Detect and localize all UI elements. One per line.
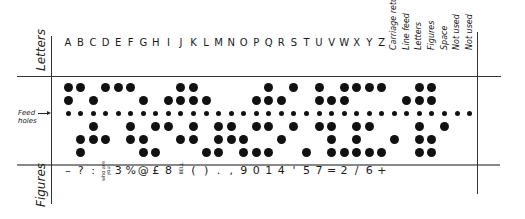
feed-hole bbox=[304, 111, 309, 116]
feed-hole bbox=[429, 111, 434, 116]
column-figure: @ bbox=[137, 164, 149, 177]
column-letter: T bbox=[300, 37, 312, 48]
column-figure: who are you bbox=[101, 161, 111, 181]
punched-hole bbox=[402, 96, 411, 105]
punched-hole bbox=[164, 96, 173, 105]
punched-hole bbox=[227, 135, 236, 144]
column-letter: N bbox=[225, 37, 237, 48]
feed-hole bbox=[128, 111, 133, 116]
feed-hole bbox=[404, 111, 409, 116]
feed-hole bbox=[78, 111, 83, 116]
punched-hole bbox=[126, 83, 135, 92]
punched-hole bbox=[189, 83, 198, 92]
top-rule-right bbox=[249, 76, 501, 77]
column-letter: P bbox=[250, 37, 262, 48]
feed-hole bbox=[178, 111, 183, 116]
column-label: Line feed bbox=[402, 13, 411, 50]
punched-hole bbox=[352, 135, 361, 144]
punched-hole bbox=[327, 122, 336, 131]
punched-hole bbox=[89, 135, 98, 144]
punched-hole bbox=[377, 148, 386, 157]
punched-hole bbox=[189, 96, 198, 105]
column-letter: Q bbox=[263, 37, 275, 48]
punched-hole bbox=[64, 96, 73, 105]
feed-hole bbox=[266, 111, 271, 116]
punched-hole bbox=[327, 135, 336, 144]
punched-hole bbox=[352, 148, 361, 157]
punched-hole bbox=[176, 96, 185, 105]
column-letter: H bbox=[150, 37, 162, 48]
column-letter: U bbox=[313, 37, 325, 48]
feed-hole bbox=[141, 111, 146, 116]
punched-hole bbox=[415, 148, 424, 157]
punched-hole bbox=[202, 96, 211, 105]
column-figure: 8 bbox=[162, 164, 174, 177]
right-axis bbox=[477, 32, 478, 194]
punched-hole bbox=[289, 83, 298, 92]
column-letter: C bbox=[87, 37, 99, 48]
punched-hole bbox=[252, 122, 261, 131]
feed-hole bbox=[329, 111, 334, 116]
punched-hole bbox=[89, 122, 98, 131]
punched-hole bbox=[176, 135, 185, 144]
punched-hole bbox=[302, 148, 311, 157]
feed-hole bbox=[367, 111, 372, 116]
feed-hole bbox=[91, 111, 96, 116]
feed-hole bbox=[66, 111, 71, 116]
punched-hole bbox=[101, 135, 110, 144]
feed-hole bbox=[204, 111, 209, 116]
punched-hole bbox=[340, 83, 349, 92]
feed-hole bbox=[166, 111, 171, 116]
letters-label: Letters bbox=[34, 29, 48, 71]
punched-hole bbox=[327, 148, 336, 157]
punched-hole bbox=[440, 122, 449, 131]
punched-hole bbox=[264, 148, 273, 157]
punched-hole bbox=[415, 96, 424, 105]
column-figure: 6 bbox=[363, 164, 375, 177]
column-letter: Z bbox=[376, 37, 388, 48]
punched-hole bbox=[264, 96, 273, 105]
punched-hole bbox=[352, 83, 361, 92]
feed-hole bbox=[467, 111, 472, 116]
left-axis bbox=[51, 36, 52, 204]
punched-hole bbox=[277, 135, 286, 144]
arrow-icon bbox=[38, 113, 48, 114]
feed-hole bbox=[216, 111, 221, 116]
column-figure: 3 bbox=[112, 164, 124, 177]
column-letter: D bbox=[100, 37, 112, 48]
column-label: Not used bbox=[465, 14, 474, 50]
punched-hole bbox=[189, 135, 198, 144]
column-letter: L bbox=[200, 37, 212, 48]
punched-hole bbox=[340, 148, 349, 157]
punched-hole bbox=[89, 96, 98, 105]
column-letter: V bbox=[326, 37, 338, 48]
punched-hole bbox=[252, 96, 261, 105]
punched-hole bbox=[76, 148, 85, 157]
feed-hole bbox=[279, 111, 284, 116]
punched-hole bbox=[365, 122, 374, 131]
punched-hole bbox=[101, 83, 110, 92]
punched-hole bbox=[189, 122, 198, 131]
feed-hole bbox=[254, 111, 259, 116]
feed-hole bbox=[455, 111, 460, 116]
feed-hole bbox=[153, 111, 158, 116]
punched-hole bbox=[139, 148, 148, 157]
column-letter: Y bbox=[363, 37, 375, 48]
column-figure: 0 bbox=[250, 164, 262, 177]
punched-hole bbox=[415, 135, 424, 144]
punched-hole bbox=[139, 135, 148, 144]
feed-hole bbox=[103, 111, 108, 116]
punched-hole bbox=[427, 148, 436, 157]
punched-hole bbox=[264, 122, 273, 131]
column-letter: X bbox=[351, 37, 363, 48]
column-letter: R bbox=[275, 37, 287, 48]
feed-holes-text: Feed holes bbox=[18, 109, 42, 125]
feed-hole bbox=[116, 111, 121, 116]
feed-hole bbox=[191, 111, 196, 116]
column-label: Carriage return bbox=[389, 0, 398, 50]
column-figure: ' bbox=[288, 164, 300, 177]
punched-hole bbox=[214, 135, 223, 144]
column-letter: K bbox=[188, 37, 200, 48]
feed-hole bbox=[342, 111, 347, 116]
punched-hole bbox=[252, 148, 261, 157]
